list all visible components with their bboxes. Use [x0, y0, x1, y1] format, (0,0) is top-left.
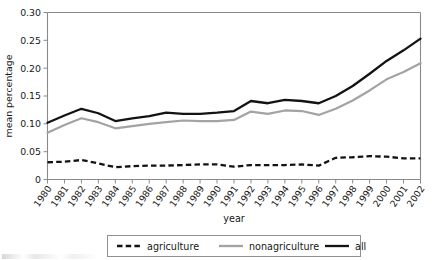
y-axis-title: mean percentage	[3, 54, 14, 137]
y-tick-label: 0.20	[20, 63, 41, 74]
y-tick-label: 0.30	[20, 7, 41, 18]
x-axis-ticks	[48, 180, 421, 184]
legend-label-all: all	[355, 241, 366, 252]
data-series-layer	[48, 39, 421, 168]
x-axis-title: year	[223, 213, 244, 224]
series-line-all	[48, 39, 421, 123]
legend-label-nonagriculture: nonagriculture	[249, 241, 319, 252]
line-chart-figure: 0.30 0.25 0.20 0.15 0.10 0.05 0 mean per…	[0, 0, 432, 260]
series-line-nonagriculture	[48, 63, 421, 133]
scan-artifact	[2, 254, 98, 259]
y-tick-label: 0.15	[20, 90, 41, 101]
y-tick-label: 0.05	[20, 146, 41, 157]
y-tick-label: 0	[35, 174, 41, 185]
y-axis-tick-labels: 0.30 0.25 0.20 0.15 0.10 0.05 0	[20, 7, 41, 185]
x-axis-tick-labels: 1980198119821983198419851986198719881989…	[31, 183, 426, 209]
y-tick-label: 0.25	[20, 35, 41, 46]
y-tick-label: 0.10	[20, 118, 41, 129]
chart-legend: agriculture nonagriculture all	[108, 236, 367, 257]
y-axis-ticks	[44, 13, 48, 180]
x-tick-label: 2002	[404, 183, 426, 208]
chart-svg: 0.30 0.25 0.20 0.15 0.10 0.05 0 mean per…	[0, 0, 432, 260]
plot-frame	[48, 13, 421, 180]
series-line-agriculture	[48, 156, 421, 167]
legend-label-agriculture: agriculture	[147, 241, 199, 252]
